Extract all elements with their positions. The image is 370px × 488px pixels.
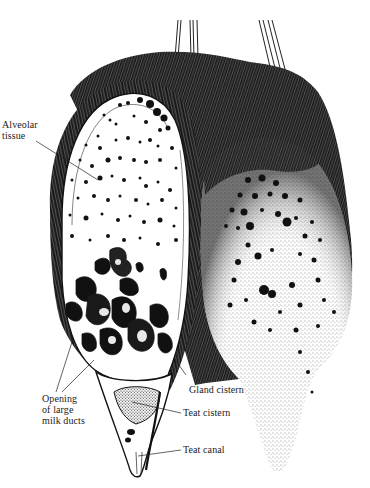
label-gland-cistern: Gland cistern — [189, 384, 244, 395]
label-gland-cistern-text: Gland cistern — [189, 384, 244, 395]
label-opening-of-large-milk-ducts: Opening of large milk ducts — [42, 393, 85, 426]
label-teat-canal-text: Teat canal — [183, 444, 225, 455]
label-alveolar-line2: tissue — [2, 130, 38, 141]
label-teat-cistern-text: Teat cistern — [183, 407, 230, 418]
label-opening-line1: Opening — [42, 393, 85, 404]
label-opening-line3: milk ducts — [42, 415, 85, 426]
label-alveolar-line1: Alveolar — [2, 119, 38, 130]
label-opening-line2: of large — [42, 404, 85, 415]
label-teat-cistern: Teat cistern — [183, 407, 230, 418]
label-teat-canal: Teat canal — [183, 444, 225, 455]
label-alveolar-tissue: Alveolar tissue — [2, 119, 38, 141]
